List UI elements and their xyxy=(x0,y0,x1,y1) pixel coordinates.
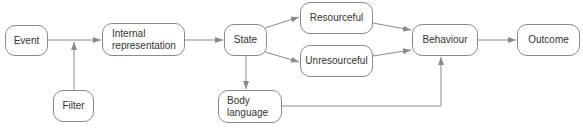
node-outcome-label: Outcome xyxy=(528,34,569,46)
node-internal-representation-label: Internal representation xyxy=(112,28,176,52)
node-event-label: Event xyxy=(14,35,40,47)
node-filter: Filter xyxy=(53,90,94,122)
node-state-label: State xyxy=(234,34,257,46)
node-body-language-label: Body language xyxy=(227,95,268,119)
node-behaviour: Behaviour xyxy=(412,24,478,56)
arrow-unresourceful-to-behaviour xyxy=(373,50,411,56)
node-state: State xyxy=(224,24,267,56)
arrow-state-to-resourceful xyxy=(265,17,299,28)
node-internal-representation: Internal representation xyxy=(102,23,185,56)
arrow-resourceful-to-behaviour xyxy=(373,23,411,30)
node-unresourceful-label: Unresourceful xyxy=(305,55,367,67)
node-resourceful: Resourceful xyxy=(300,2,373,34)
arrow-state-to-unresourceful xyxy=(265,52,299,62)
node-body-language: Body language xyxy=(218,90,282,123)
node-unresourceful: Unresourceful xyxy=(300,45,373,77)
node-outcome: Outcome xyxy=(517,24,580,56)
node-filter-label: Filter xyxy=(62,100,84,112)
node-resourceful-label: Resourceful xyxy=(310,12,363,24)
node-event: Event xyxy=(5,25,48,56)
node-behaviour-label: Behaviour xyxy=(422,34,467,46)
